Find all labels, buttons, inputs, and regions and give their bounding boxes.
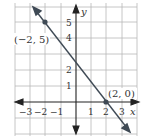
y-tick-1: 1 bbox=[66, 81, 72, 91]
y-tick-2: 2 bbox=[66, 65, 72, 75]
y-tick-4: 4 bbox=[66, 33, 72, 43]
x-tick-2: 2 bbox=[103, 107, 109, 117]
y-tick-5: 5 bbox=[66, 18, 72, 28]
x-tick-3: 3 bbox=[119, 107, 125, 117]
x-axis-label: x bbox=[130, 106, 136, 117]
y-axis-label: y bbox=[80, 6, 87, 17]
x-tick-neg3: −3 bbox=[19, 107, 33, 117]
x-tick-neg1: −1 bbox=[50, 107, 63, 117]
point-neg2-5 bbox=[42, 19, 47, 24]
point-2-0 bbox=[103, 99, 108, 104]
x-tick-neg2: −2 bbox=[34, 107, 47, 117]
coordinate-plane: y x 5 4 2 1 −3 −2 −1 1 2 3 (−2, 5) (2, 0… bbox=[0, 0, 141, 139]
x-tick-1: 1 bbox=[88, 107, 94, 117]
point-label-a: (−2, 5) bbox=[14, 34, 49, 45]
point-label-b: (2, 0) bbox=[108, 88, 135, 99]
plotted-line bbox=[33, 7, 130, 132]
